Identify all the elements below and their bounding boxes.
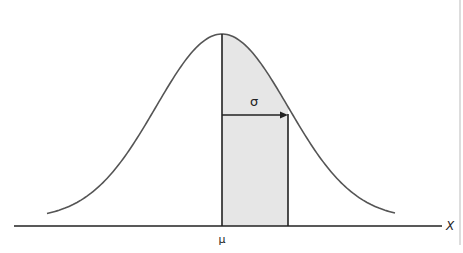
bell-curve: [47, 34, 395, 213]
shaded-region: [222, 34, 288, 226]
mu-label: μ: [219, 233, 226, 246]
normal-curve-diagram: σ μ X: [0, 0, 463, 253]
x-axis-label: X: [445, 219, 455, 233]
sigma-label: σ: [250, 94, 258, 109]
